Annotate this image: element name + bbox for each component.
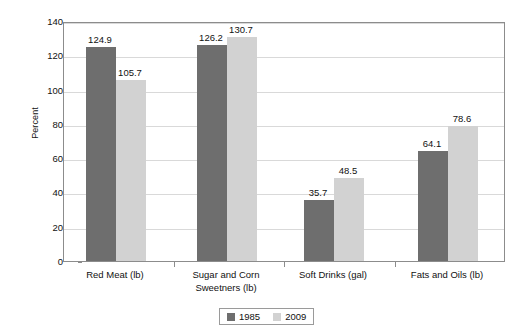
bar-1985-2	[197, 45, 227, 261]
bar-value-label: 78.6	[440, 114, 484, 124]
bar-value-label: 64.1	[410, 139, 454, 149]
legend-item-2009: 2009	[273, 312, 306, 322]
gridline	[64, 23, 504, 24]
legend-label: 1985	[239, 312, 260, 322]
y-tick-label: 80	[29, 120, 63, 129]
chart-legend: 19852009	[219, 308, 314, 325]
bar-2009-2	[227, 37, 257, 261]
y-tick-label: 100	[29, 86, 63, 95]
bar-value-label: 124.9	[78, 35, 122, 45]
legend-label: 2009	[285, 312, 306, 322]
y-tick-mark	[78, 262, 82, 263]
x-tick-mark	[284, 262, 285, 267]
bar-1985-4	[418, 151, 448, 261]
legend-swatch-icon	[273, 313, 281, 321]
x-tick-mark	[174, 262, 175, 267]
bar-value-label: 130.7	[219, 25, 263, 35]
y-tick-label: 140	[29, 17, 63, 26]
y-tick-label: 60	[29, 154, 63, 163]
y-tick-label: 40	[29, 188, 63, 197]
y-axis-ticks: 020406080100120140	[21, 0, 63, 333]
bar-2009-1	[116, 80, 146, 261]
x-category-label-line: Sweetners (lb)	[151, 282, 301, 295]
x-category-label: Fats and Oils (lb)	[372, 269, 522, 282]
legend-item-1985: 1985	[227, 312, 260, 322]
legend-swatch-icon	[227, 313, 235, 321]
bar-value-label: 105.7	[108, 68, 152, 78]
bar-value-label: 35.7	[296, 188, 340, 198]
x-tick-mark	[395, 262, 396, 267]
bar-1985-3	[304, 200, 334, 261]
bar-value-label: 48.5	[326, 166, 370, 176]
y-tick-label: 20	[29, 223, 63, 232]
gridline	[64, 57, 504, 58]
bar-chart: Percent 020406080100120140 Red Meat (lb)…	[0, 0, 523, 333]
y-tick-label: 0	[29, 257, 63, 266]
x-category-label-line: Fats and Oils (lb)	[372, 269, 522, 282]
bar-1985-1	[86, 47, 116, 261]
y-tick-label: 120	[29, 51, 63, 60]
